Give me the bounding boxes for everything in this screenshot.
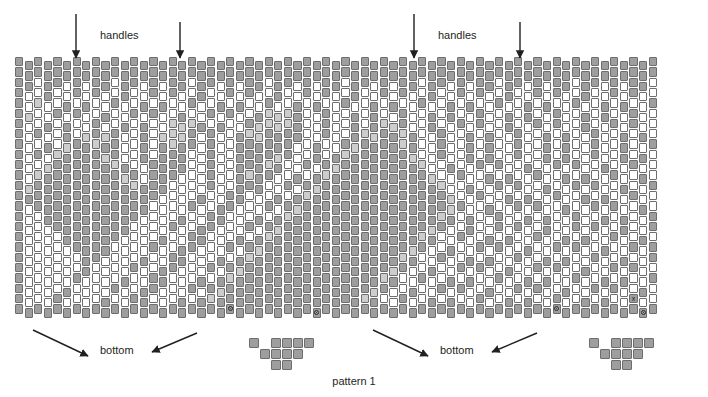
fringe-bead [622, 338, 632, 348]
handles-label-left: handles [100, 29, 139, 41]
fringe-bead [282, 349, 292, 359]
fringe-bead [600, 349, 610, 359]
fringe-bead [249, 338, 259, 348]
handles-label-right: handles [438, 29, 477, 41]
bottom-label-right: bottom [440, 344, 474, 356]
fringe-bead [633, 349, 643, 359]
fringe-bead [611, 349, 621, 359]
fringe-motifs [0, 0, 708, 397]
fringe-bead [611, 360, 621, 370]
bottom-label-left: bottom [100, 344, 134, 356]
fringe-bead [611, 338, 621, 348]
figure-caption: pattern 1 [0, 375, 708, 387]
fringe-bead [271, 338, 281, 348]
fringe-bead [282, 338, 292, 348]
fringe-bead [622, 360, 632, 370]
fringe-bead [644, 338, 654, 348]
fringe-bead [304, 338, 314, 348]
fringe-bead [282, 360, 292, 370]
fringe-bead [260, 349, 270, 359]
fringe-bead [293, 338, 303, 348]
fringe-bead [622, 349, 632, 359]
pattern-diagram: x handles handles bottom bottom pattern … [0, 0, 708, 397]
fringe-bead [589, 338, 599, 348]
fringe-bead [633, 338, 643, 348]
fringe-bead [271, 360, 281, 370]
fringe-bead [293, 349, 303, 359]
fringe-bead [271, 349, 281, 359]
